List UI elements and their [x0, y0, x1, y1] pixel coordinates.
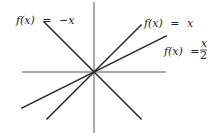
label-x: f(x) = x [143, 17, 194, 30]
label-x-half: f(x) = x 2 [163, 37, 208, 62]
label-x-half-denominator: 2 [200, 49, 207, 62]
label-neg-x: f(x) = −x [15, 14, 75, 27]
chart: f(x) = −x f(x) = x f(x) = x 2 [0, 0, 217, 139]
line-neg-x [44, 22, 142, 120]
svg-text:f(x) =: f(x) = [163, 45, 200, 58]
